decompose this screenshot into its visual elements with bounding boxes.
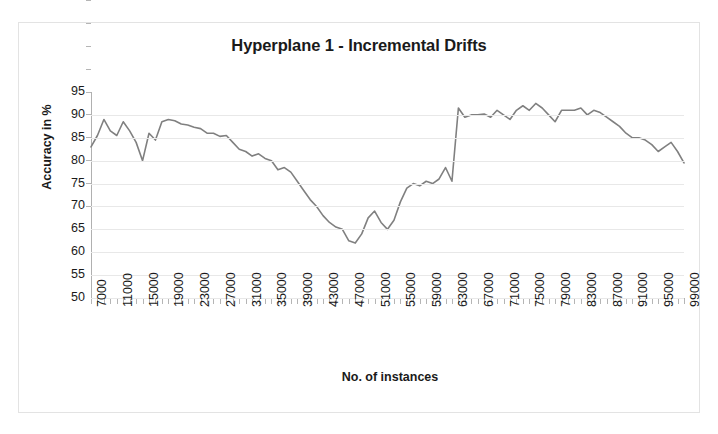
x-axis-tick-mark	[271, 299, 272, 304]
x-axis-tick-mark	[317, 299, 318, 304]
gridline	[91, 229, 684, 230]
gridline	[91, 161, 684, 162]
x-axis-tick-mark	[117, 299, 118, 304]
x-axis-tick-mark	[471, 299, 472, 304]
x-axis-tick-label: 43000	[328, 272, 341, 307]
y-axis-tick-mark	[86, 46, 91, 47]
x-axis-tick-label: 75000	[534, 272, 547, 307]
x-axis-tick-mark	[420, 299, 421, 304]
y-axis-tick-label: 55	[51, 268, 85, 281]
x-axis-tick-label: 47000	[354, 272, 367, 307]
x-axis-tick-mark	[162, 299, 163, 304]
accuracy-series-line	[91, 92, 684, 298]
x-axis-tick-mark	[549, 299, 550, 304]
chart-title: Hyperplane 1 - Incremental Drifts	[0, 36, 718, 55]
chart-figure: Hyperplane 1 - Incremental Drifts Accura…	[0, 0, 718, 434]
x-axis-tick-mark	[607, 299, 608, 304]
x-axis-tick-label: 91000	[637, 272, 650, 307]
y-axis-tick-mark	[86, 0, 91, 1]
x-axis-tick-mark	[220, 299, 221, 304]
x-axis-tick-mark	[239, 299, 240, 304]
x-axis-tick-label: 87000	[612, 272, 625, 307]
x-axis-tick-mark	[452, 299, 453, 304]
x-axis-tick-mark	[265, 299, 266, 304]
y-axis-tick-label: 60	[51, 245, 85, 258]
y-axis-tick-mark	[86, 137, 91, 138]
y-axis-tick-labels: 95908580757065605550	[47, 92, 85, 298]
x-axis-tick-mark	[523, 299, 524, 304]
y-axis-tick-mark	[86, 206, 91, 207]
x-axis-tick-mark	[394, 299, 395, 304]
x-axis-tick-mark	[246, 299, 247, 304]
x-axis-tick-label: 71000	[509, 272, 522, 307]
x-axis-tick-mark	[478, 299, 479, 304]
x-axis-tick-mark	[497, 299, 498, 304]
x-axis-tick-mark	[600, 299, 601, 304]
x-axis-tick-label: 35000	[276, 272, 289, 307]
x-axis-tick-label: 23000	[199, 272, 212, 307]
x-axis-label: No. of instances	[90, 370, 690, 384]
x-axis-tick-mark	[194, 299, 195, 304]
x-axis-tick-mark	[652, 299, 653, 304]
y-axis-tick-label: 50	[51, 291, 85, 304]
y-axis-tick-mark	[86, 183, 91, 184]
y-axis-tick-label: 65	[51, 222, 85, 235]
gridline	[91, 115, 684, 116]
x-axis-tick-mark	[555, 299, 556, 304]
y-axis-tick-mark	[86, 23, 91, 24]
x-axis-tick-mark	[323, 299, 324, 304]
x-axis-tick-mark	[504, 299, 505, 304]
x-axis-tick-mark	[426, 299, 427, 304]
x-axis-tick-label: 83000	[586, 272, 599, 307]
y-axis-tick-label: 80	[51, 154, 85, 167]
gridline	[91, 206, 684, 207]
y-axis-tick-mark	[86, 114, 91, 115]
x-axis-tick-mark	[684, 299, 685, 304]
gridline	[91, 184, 684, 185]
y-axis-tick-label: 90	[51, 108, 85, 121]
x-axis-tick-mark	[349, 299, 350, 304]
x-axis-tick-mark	[632, 299, 633, 304]
gridline	[91, 252, 684, 253]
x-axis-tick-mark	[529, 299, 530, 304]
x-axis-tick-mark	[297, 299, 298, 304]
x-axis-tick-mark	[581, 299, 582, 304]
x-axis-tick-mark	[658, 299, 659, 304]
x-axis-tick-mark	[136, 299, 137, 304]
y-axis-tick-mark	[86, 92, 91, 93]
x-axis-tick-label: 7000	[96, 279, 109, 307]
x-axis-tick-mark	[188, 299, 189, 304]
x-axis-tick-label: 79000	[560, 272, 573, 307]
x-axis-tick-mark	[678, 299, 679, 304]
x-axis-tick-mark	[375, 299, 376, 304]
y-axis-tick-mark	[86, 69, 91, 70]
x-axis-tick-label: 39000	[302, 272, 315, 307]
x-axis-tick-mark	[91, 299, 92, 304]
x-axis-tick-mark	[168, 299, 169, 304]
y-axis-tick-label: 70	[51, 199, 85, 212]
x-axis-tick-mark	[342, 299, 343, 304]
x-axis-tick-mark	[213, 299, 214, 304]
x-axis-tick-label: 19000	[173, 272, 186, 307]
x-axis-tick-mark	[143, 299, 144, 304]
x-axis-tick-label: 99000	[689, 272, 702, 307]
x-axis-tick-label: 11000	[122, 273, 135, 307]
x-axis-tick-mark	[626, 299, 627, 304]
x-axis-tick-label: 15000	[148, 272, 161, 307]
x-axis-tick-mark	[291, 299, 292, 304]
y-axis-tick-mark	[86, 160, 91, 161]
x-axis-tick-label: 67000	[483, 272, 496, 307]
x-axis-tick-mark	[446, 299, 447, 304]
x-axis-tick-label: 51000	[380, 272, 393, 307]
x-axis-tick-label: 31000	[251, 272, 264, 307]
x-axis-tick-mark	[110, 299, 111, 304]
x-axis-tick-label: 27000	[225, 272, 238, 307]
x-axis-tick-label: 59000	[431, 272, 444, 307]
x-axis-tick-label: 95000	[663, 272, 676, 307]
x-axis-tick-mark	[400, 299, 401, 304]
accuracy-polyline	[91, 103, 684, 243]
x-axis-tick-mark	[368, 299, 369, 304]
plot-area	[91, 92, 684, 298]
x-axis-tick-label: 63000	[457, 272, 470, 307]
gridline	[91, 138, 684, 139]
